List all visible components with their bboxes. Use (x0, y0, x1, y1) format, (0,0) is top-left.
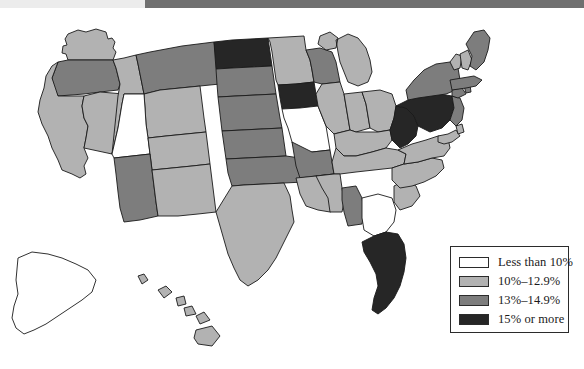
legend-swatch-10-to-12-9 (459, 276, 489, 287)
state-de: Delaware (456, 124, 464, 134)
scan-edge-left (0, 0, 145, 8)
state-ga: Georgia (362, 194, 396, 236)
state-az: Arizona (114, 154, 158, 222)
legend-label-10-to-12-9: 10%–12.9% (498, 275, 560, 288)
state-mt: Montana (136, 42, 220, 94)
legend-label-less-than-10: Less than 10% (498, 256, 573, 269)
state-or: Oregon (52, 60, 120, 96)
state-ak: Alaska (12, 252, 96, 334)
state-hi: Hawaii (176, 296, 186, 306)
state-wa: Washington (62, 29, 116, 60)
state-nm: New Mexico (152, 164, 216, 216)
state-hi: Hawaii (138, 274, 148, 284)
state-ok: Oklahoma (226, 156, 304, 186)
state-ne: Nebraska (218, 94, 282, 131)
state-wy: Wyoming (144, 86, 206, 138)
state-md: Maryland (438, 130, 460, 144)
legend-row-2: 13%–14.9% (451, 291, 568, 310)
state-ks: Kansas (222, 128, 286, 159)
legend-swatch-less-than-10 (459, 257, 489, 268)
legend-label-13-to-14-9: 13%–14.9% (498, 294, 560, 307)
state-co: Colorado (148, 132, 210, 170)
map-legend: Less than 10% 10%–12.9% 13%–14.9% 15% or… (450, 246, 569, 333)
state-hi: Hawaii (194, 326, 220, 346)
legend-row-3: 15% or more (451, 310, 568, 329)
state-tx: Texas (216, 183, 294, 286)
scan-artifact-bar (145, 0, 584, 8)
state-ia: Iowa (278, 82, 318, 109)
legend-row-1: 10%–12.9% (451, 272, 568, 291)
legend-row-0: Less than 10% (451, 253, 568, 272)
legend-swatch-13-to-14-9 (459, 295, 489, 306)
state-fl: Florida (362, 232, 406, 314)
state-mn: Minnesota (268, 36, 314, 85)
legend-swatch-15-or-more (459, 314, 489, 325)
state-al: Alabama (342, 186, 364, 226)
state-hi: Hawaii (158, 286, 172, 298)
map-page: WashingtonOregonCaliforniaNevadaIdahoMon… (0, 0, 584, 369)
state-hi: Hawaii (184, 306, 196, 316)
state-sd: South Dakota (216, 66, 276, 97)
state-hi: Hawaii (196, 312, 210, 324)
legend-label-15-or-more: 15% or more (498, 313, 564, 326)
state-nd: North Dakota (214, 38, 272, 69)
